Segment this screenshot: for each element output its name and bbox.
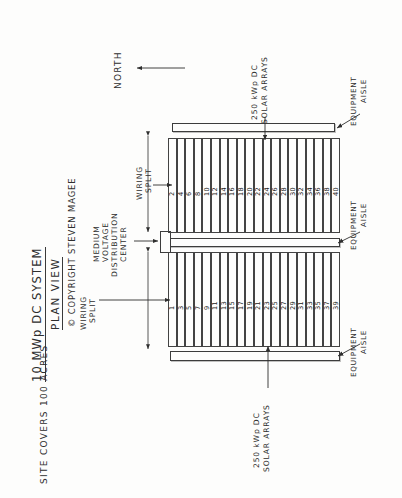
wiring-split-south-line2: SPLIT (88, 298, 97, 323)
array-callout-bottom-line2: SOLAR ARRAYS (262, 404, 271, 472)
solar-array-30[interactable]: 30 (288, 138, 297, 233)
plan-view-sheet: 10 MWp DC SYSTEM PLAN VIEW © COPYRIGHT S… (0, 0, 402, 498)
solar-array-label-27: 27 (280, 301, 288, 310)
solar-array-label-18: 18 (237, 187, 245, 196)
solar-array-label-20: 20 (246, 187, 254, 196)
solar-array-10[interactable]: 10 (202, 138, 211, 233)
solar-array-14[interactable]: 14 (220, 138, 229, 233)
solar-array-label-28: 28 (280, 187, 288, 196)
solar-array-7[interactable]: 7 (194, 252, 203, 347)
solar-array-40[interactable]: 40 (331, 138, 340, 233)
solar-array-13[interactable]: 13 (220, 252, 229, 347)
solar-array-19[interactable]: 19 (245, 252, 254, 347)
site-area-note: SITE COVERS 100 ACRES (39, 344, 49, 484)
solar-array-12[interactable]: 12 (211, 138, 220, 233)
solar-array-18[interactable]: 18 (237, 138, 246, 233)
solar-array-label-29: 29 (289, 301, 297, 310)
solar-array-label-32: 32 (297, 187, 305, 196)
solar-array-label-1: 1 (168, 306, 176, 310)
mvdc-label-line2: VOLTAGE (101, 222, 110, 262)
solar-array-label-40: 40 (332, 187, 340, 196)
solar-array-label-19: 19 (246, 301, 254, 310)
solar-array-label-22: 22 (254, 187, 262, 196)
solar-array-label-6: 6 (185, 192, 193, 196)
solar-array-25[interactable]: 25 (271, 252, 280, 347)
solar-array-label-17: 17 (237, 301, 245, 310)
solar-array-label-5: 5 (185, 306, 193, 310)
solar-array-label-21: 21 (254, 301, 262, 310)
solar-array-label-9: 9 (203, 306, 211, 310)
solar-array-36[interactable]: 36 (314, 138, 323, 233)
solar-array-label-31: 31 (297, 301, 305, 310)
equipment-aisle-south-line2: AISLE (359, 330, 368, 354)
solar-array-26[interactable]: 26 (271, 138, 280, 233)
solar-array-label-30: 30 (289, 187, 297, 196)
solar-array-33[interactable]: 33 (306, 252, 315, 347)
solar-array-31[interactable]: 31 (297, 252, 306, 347)
mvdc-label-line1: MEDIUM (92, 225, 101, 262)
solar-array-21[interactable]: 21 (254, 252, 263, 347)
solar-array-37[interactable]: 37 (323, 252, 332, 347)
solar-array-label-16: 16 (228, 187, 236, 196)
solar-array-15[interactable]: 15 (228, 252, 237, 347)
north-label: NORTH (113, 51, 123, 89)
solar-array-4[interactable]: 4 (177, 138, 186, 233)
array-callout-top-line1: 250 kWp DC (250, 64, 259, 120)
solar-array-label-35: 35 (314, 301, 322, 310)
equipment-aisle-middle-line2: AISLE (359, 203, 368, 227)
solar-array-label-37: 37 (323, 301, 331, 310)
annotation-overlay (0, 0, 402, 498)
solar-array-38[interactable]: 38 (323, 138, 332, 233)
array-callout-bottom-line1: 250 kWp DC (252, 412, 261, 468)
solar-array-5[interactable]: 5 (185, 252, 194, 347)
solar-array-label-23: 23 (263, 301, 271, 310)
array-block-even: 246810121416182022242628303234363840 (168, 138, 340, 233)
solar-array-16[interactable]: 16 (228, 138, 237, 233)
equipment-aisle-north-line1: EQUIPMENT (349, 76, 358, 126)
solar-array-23[interactable]: 23 (263, 252, 272, 347)
solar-array-2[interactable]: 2 (168, 138, 177, 233)
solar-array-label-13: 13 (220, 301, 228, 310)
equipment-aisle-middle (170, 238, 340, 247)
solar-array-34[interactable]: 34 (306, 138, 315, 233)
solar-array-27[interactable]: 27 (280, 252, 289, 347)
solar-array-17[interactable]: 17 (237, 252, 246, 347)
solar-array-39[interactable]: 39 (331, 252, 340, 347)
equipment-aisle-middle-line1: EQUIPMENT (349, 200, 358, 250)
solar-array-32[interactable]: 32 (297, 138, 306, 233)
solar-array-8[interactable]: 8 (194, 138, 203, 233)
solar-array-9[interactable]: 9 (202, 252, 211, 347)
solar-array-label-7: 7 (194, 306, 202, 310)
solar-array-22[interactable]: 22 (254, 138, 263, 233)
mvdc-label-line3: DISTRIBUTION (110, 212, 119, 277)
solar-array-label-26: 26 (271, 187, 279, 196)
solar-array-label-39: 39 (332, 301, 340, 310)
solar-array-label-2: 2 (168, 192, 176, 196)
copyright-notice: © COPYRIGHT STEVEN MAGEE (67, 178, 77, 327)
solar-array-label-25: 25 (271, 301, 279, 310)
solar-array-label-8: 8 (194, 192, 202, 196)
solar-array-6[interactable]: 6 (185, 138, 194, 233)
solar-array-3[interactable]: 3 (177, 252, 186, 347)
solar-array-28[interactable]: 28 (280, 138, 289, 233)
solar-array-20[interactable]: 20 (245, 138, 254, 233)
solar-array-1[interactable]: 1 (168, 252, 177, 347)
wiring-split-south-line1: WIRING (79, 296, 88, 330)
solar-array-label-10: 10 (203, 187, 211, 196)
equipment-aisle-south (170, 351, 340, 361)
solar-array-35[interactable]: 35 (314, 252, 323, 347)
equipment-aisle-north-line2: AISLE (359, 79, 368, 103)
solar-array-label-24: 24 (263, 187, 271, 196)
equipment-aisle-south-line1: EQUIPMENT (349, 327, 358, 377)
mvdc-label-line4: CENTER (119, 226, 128, 262)
solar-array-29[interactable]: 29 (288, 252, 297, 347)
wiring-split-north-line2: SPLIT (144, 168, 153, 193)
equipment-aisle-north (172, 123, 335, 132)
solar-array-label-11: 11 (211, 301, 219, 310)
wiring-split-north-line1: WIRING (135, 166, 144, 200)
array-block-odd: 13579111315171921232527293133353739 (168, 252, 340, 347)
solar-array-label-12: 12 (211, 187, 219, 196)
solar-array-24[interactable]: 24 (263, 138, 272, 233)
solar-array-label-34: 34 (306, 187, 314, 196)
solar-array-11[interactable]: 11 (211, 252, 220, 347)
